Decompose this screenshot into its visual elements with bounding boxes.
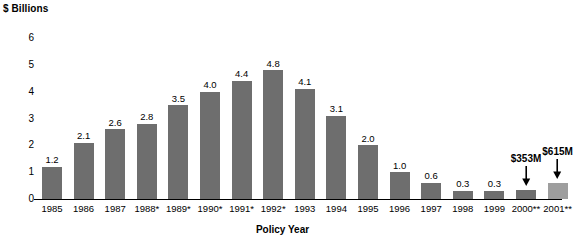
bar[interactable] xyxy=(137,124,157,199)
x-axis-line xyxy=(34,199,562,200)
bar[interactable] xyxy=(516,190,536,199)
bar[interactable] xyxy=(105,129,125,199)
annotation-text: $353M xyxy=(511,154,542,164)
down-arrow-icon xyxy=(553,159,562,179)
x-axis-tick-label: 2000** xyxy=(512,204,541,214)
bar[interactable] xyxy=(548,183,568,200)
bar[interactable] xyxy=(263,70,283,199)
bar-group: 0.61997 xyxy=(421,183,441,199)
bar-group: 2001**$615M xyxy=(548,183,568,200)
bar-value-label: 4.0 xyxy=(203,80,216,90)
x-axis-tick-label: 1992* xyxy=(261,204,286,214)
bar-group: 2.61987 xyxy=(105,129,125,199)
bar-value-label: 0.6 xyxy=(425,171,438,181)
bar-group: 2.81988* xyxy=(137,124,157,199)
bar-annotation: $615M xyxy=(542,147,573,179)
plot-area: 1.219852.119862.619872.81988*3.51989*4.0… xyxy=(0,0,575,244)
x-axis-tick-label: 2001** xyxy=(543,204,572,214)
bar-group: 3.51989* xyxy=(168,105,188,199)
bar-group: 2.11986 xyxy=(74,143,94,199)
bar-group: 4.11993 xyxy=(295,89,315,199)
bar[interactable] xyxy=(484,191,504,199)
bar[interactable] xyxy=(295,89,315,199)
bar[interactable] xyxy=(200,92,220,199)
x-axis-tick-label: 1988* xyxy=(134,204,159,214)
x-axis-tick-label: 1986 xyxy=(73,204,94,214)
bar-group: 4.41991* xyxy=(232,81,252,199)
down-arrow-icon xyxy=(521,166,530,186)
bar-value-label: 2.8 xyxy=(140,112,153,122)
bar-group: 1.01996 xyxy=(390,172,410,199)
bar-chart: $ Billions 6543210 1.219852.119862.61987… xyxy=(0,0,575,244)
bar-value-label: 0.3 xyxy=(456,179,469,189)
x-axis-tick-label: 1994 xyxy=(326,204,347,214)
x-axis-tick-label: 1998 xyxy=(452,204,473,214)
bar-group: 0.31999 xyxy=(484,191,504,199)
bar-group: 2000**$353M xyxy=(516,190,536,199)
bar[interactable] xyxy=(232,81,252,199)
x-axis-tick-label: 1987 xyxy=(105,204,126,214)
bar-value-label: 4.4 xyxy=(235,69,248,79)
bar-value-label: 3.1 xyxy=(330,104,343,114)
bar[interactable] xyxy=(421,183,441,199)
bar-value-label: 4.8 xyxy=(267,59,280,69)
bar[interactable] xyxy=(168,105,188,199)
x-axis-tick-label: 1989* xyxy=(166,204,191,214)
x-axis-tick-label: 1995 xyxy=(357,204,378,214)
bar-value-label: 2.6 xyxy=(109,118,122,128)
bar-value-label: 1.0 xyxy=(393,161,406,171)
bar-group: 0.31998 xyxy=(453,191,473,199)
x-axis-title: Policy Year xyxy=(0,224,575,235)
x-axis-tick-label: 1993 xyxy=(294,204,315,214)
bar-value-label: 1.2 xyxy=(45,155,58,165)
x-axis-tick-label: 1997 xyxy=(421,204,442,214)
x-axis-tick-label: 1996 xyxy=(389,204,410,214)
bar-group: 3.11994 xyxy=(326,116,346,199)
bar[interactable] xyxy=(42,167,62,199)
bar[interactable] xyxy=(326,116,346,199)
bar[interactable] xyxy=(358,145,378,199)
bar[interactable] xyxy=(390,172,410,199)
x-axis-tick-label: 1990* xyxy=(198,204,223,214)
bar-annotation: $353M xyxy=(511,154,542,186)
annotation-text: $615M xyxy=(542,147,573,157)
x-axis-tick-label: 1985 xyxy=(41,204,62,214)
bar-group: 4.81992* xyxy=(263,70,283,199)
bar-group: 1.21985 xyxy=(42,167,62,199)
bar-group: 4.01990* xyxy=(200,92,220,199)
bar[interactable] xyxy=(74,143,94,199)
bar-value-label: 2.0 xyxy=(361,134,374,144)
bar-group: 2.01995 xyxy=(358,145,378,199)
bar-value-label: 4.1 xyxy=(298,77,311,87)
x-axis-tick-label: 1999 xyxy=(484,204,505,214)
bar-value-label: 2.1 xyxy=(77,131,90,141)
bar-value-label: 0.3 xyxy=(488,179,501,189)
bar[interactable] xyxy=(453,191,473,199)
x-axis-title-text: Policy Year xyxy=(256,224,309,235)
bar-value-label: 3.5 xyxy=(172,94,185,104)
x-axis-tick-label: 1991* xyxy=(229,204,254,214)
